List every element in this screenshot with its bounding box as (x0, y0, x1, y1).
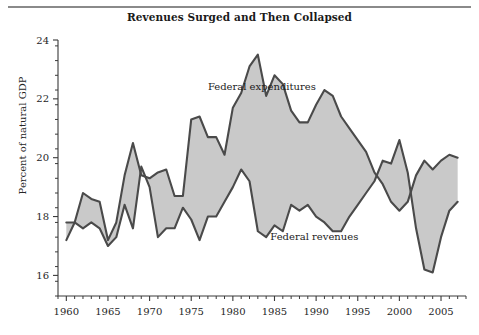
x-tick-label: 1990 (303, 306, 328, 317)
x-tick-label: 1960 (54, 306, 79, 317)
x-tick-label: 1965 (95, 306, 120, 317)
y-tick-label: 18 (36, 211, 49, 222)
y-tick-label: 22 (36, 93, 49, 104)
y-tick-label: 16 (36, 270, 49, 281)
x-tick-label: 2005 (428, 306, 453, 317)
label-federal-expenditures: Federal expenditures (208, 81, 316, 92)
chart-figure: Revenues Surged and Then Collapsed Perce… (0, 0, 479, 335)
y-tick-label: 24 (36, 35, 49, 46)
y-tick-label: 20 (36, 152, 49, 163)
x-tick-label: 1975 (178, 306, 203, 317)
chart-plot-area: 1618202224196019651970197519801985199019… (0, 0, 479, 335)
label-federal-revenues: Federal revenues (270, 231, 358, 242)
x-tick-label: 1985 (262, 306, 287, 317)
x-tick-label: 1995 (345, 306, 370, 317)
x-tick-label: 2000 (387, 306, 412, 317)
x-tick-label: 1980 (220, 306, 245, 317)
x-tick-label: 1970 (137, 306, 162, 317)
